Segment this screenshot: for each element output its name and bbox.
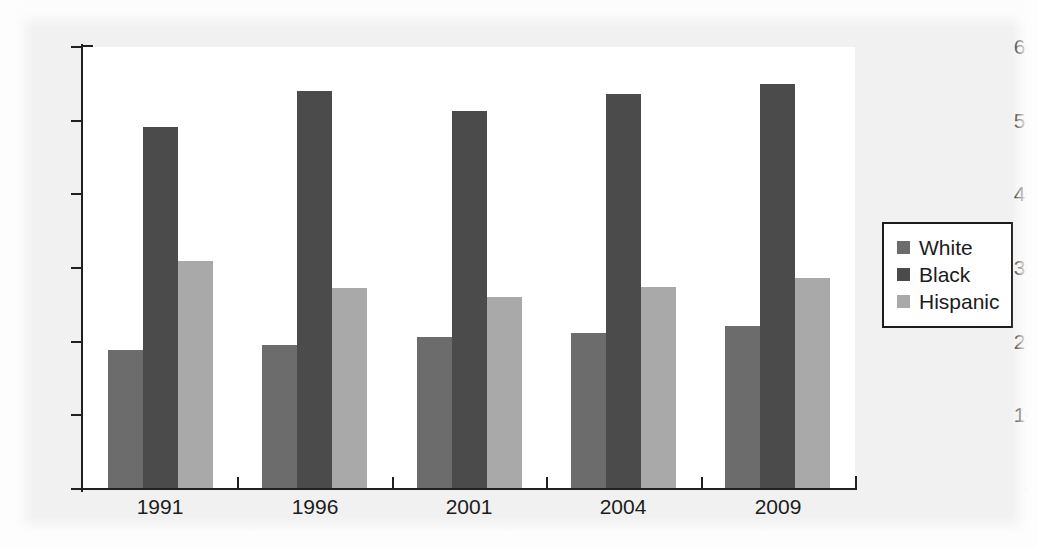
legend-swatch-icon <box>897 241 910 254</box>
bar <box>760 84 795 489</box>
bar <box>795 278 830 489</box>
legend-item-white[interactable]: White <box>897 234 1001 261</box>
legend-label: White <box>919 237 973 258</box>
y-tick-mark <box>71 414 83 416</box>
y-tick-mark <box>71 46 83 48</box>
bar <box>725 326 760 489</box>
y-tick-mark <box>71 267 83 269</box>
bar <box>606 94 641 489</box>
y-tick-mark <box>71 193 83 195</box>
chart-figure: 0102030405060 19911996200120042009 White… <box>0 0 1037 547</box>
x-tick-label: 1996 <box>255 496 375 517</box>
bar <box>108 350 143 489</box>
x-tick-mark <box>701 477 703 490</box>
x-tick-mark <box>237 477 239 490</box>
bar <box>178 261 213 489</box>
x-tick-mark <box>855 477 857 490</box>
legend-label: Hispanic <box>919 291 1000 312</box>
bar <box>417 337 452 489</box>
legend-label: Black <box>919 264 970 285</box>
y-tick-label: 10 <box>991 404 1037 425</box>
legend: WhiteBlackHispanic <box>882 222 1013 328</box>
bar <box>452 111 487 489</box>
x-tick-label: 2009 <box>718 496 838 517</box>
bar <box>641 287 676 489</box>
bar <box>262 345 297 489</box>
y-tick-label: 0 <box>991 478 1037 499</box>
x-axis-line <box>81 488 857 490</box>
bar <box>297 91 332 489</box>
legend-swatch-icon <box>897 268 910 281</box>
y-tick-label: 50 <box>991 110 1037 131</box>
legend-swatch-icon <box>897 295 910 308</box>
bar <box>487 297 522 489</box>
y-tick-label: 20 <box>991 331 1037 352</box>
bar <box>332 288 367 489</box>
x-tick-label: 2004 <box>563 496 683 517</box>
legend-item-black[interactable]: Black <box>897 261 1001 288</box>
y-tick-label: 40 <box>991 183 1037 204</box>
x-tick-mark <box>546 477 548 490</box>
x-tick-label: 2001 <box>409 496 529 517</box>
bar <box>571 333 606 489</box>
y-tick-mark <box>71 488 83 490</box>
x-tick-mark <box>392 477 394 490</box>
bar <box>143 127 178 489</box>
y-tick-mark <box>71 341 83 343</box>
bars <box>83 47 855 489</box>
x-tick-label: 1991 <box>100 496 220 517</box>
legend-item-hispanic[interactable]: Hispanic <box>897 288 1001 315</box>
y-tick-label: 60 <box>991 36 1037 57</box>
y-tick-mark <box>71 120 83 122</box>
